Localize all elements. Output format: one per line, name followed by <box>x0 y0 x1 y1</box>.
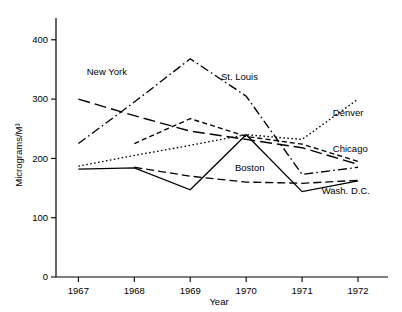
x-tick-label: 1969 <box>180 285 201 296</box>
x-tick-label: 1967 <box>68 285 89 296</box>
x-axis-title: Year <box>209 296 228 307</box>
x-axis-tick-labels: 196719681969197019711972 <box>68 285 369 296</box>
y-tick-label: 300 <box>32 93 48 104</box>
series-label-boston: Boston <box>235 162 265 173</box>
x-tick-label: 1970 <box>236 285 257 296</box>
y-tick-label: 100 <box>32 212 48 223</box>
series-label-denver: Denver <box>333 107 364 118</box>
y-axis-title: Micrograms/M³ <box>13 123 24 186</box>
chart-series-group <box>78 59 358 192</box>
y-axis-ticks <box>51 40 56 277</box>
series-label-chicago: Chicago <box>333 143 368 154</box>
series-line-denver <box>78 99 358 166</box>
x-tick-label: 1971 <box>292 285 313 296</box>
x-tick-label: 1972 <box>347 285 368 296</box>
y-tick-label: 400 <box>32 34 48 45</box>
line-chart: 0100200300400 196719681969197019711972 N… <box>0 0 402 312</box>
y-tick-label: 0 <box>43 271 48 282</box>
series-line-new-york <box>78 99 358 164</box>
chart-svg: 0100200300400 196719681969197019711972 N… <box>0 0 402 312</box>
y-axis-tick-labels: 0100200300400 <box>32 34 48 282</box>
series-label-st-louis: St. Louis <box>221 71 258 82</box>
y-tick-label: 200 <box>32 153 48 164</box>
x-axis-ticks <box>78 277 358 282</box>
series-label-wash-d-c: Wash. D.C. <box>322 185 370 196</box>
series-label-new-york: New York <box>87 66 127 77</box>
x-tick-label: 1968 <box>124 285 145 296</box>
